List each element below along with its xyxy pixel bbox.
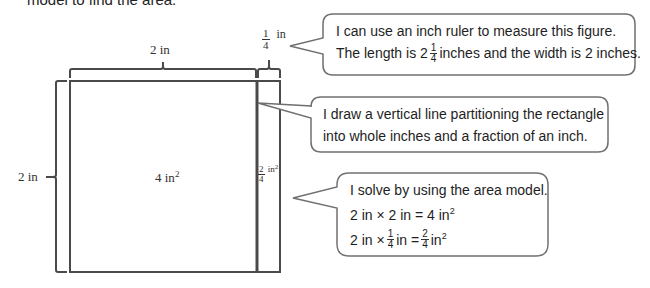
top-brace-whole (70, 62, 256, 78)
exponent: 2 (175, 169, 180, 179)
exponent: 2 (450, 206, 455, 216)
bubble-3-text: I solve by using the area model. 2 in × … (350, 180, 548, 251)
whole-area-label: 4 in2 (155, 169, 179, 186)
bubble-2-line-1: I draw a vertical line partitioning the … (323, 103, 604, 125)
exponent: 2 (442, 231, 447, 241)
left-brace (46, 81, 67, 272)
text: inches and the width is 2 inches. (439, 45, 641, 61)
top-brace-fraction (258, 60, 280, 78)
unit: in (277, 27, 286, 41)
text: in = (396, 231, 419, 247)
bubble-2-text: I draw a vertical line partitioning the … (323, 103, 604, 147)
denominator: 4 (431, 54, 437, 64)
unit: in (268, 164, 275, 174)
bubble-1-text: I can use an inch ruler to measure this … (336, 20, 641, 65)
denominator: 4 (422, 240, 428, 250)
fraction-area-label: 2 4 in2 (258, 165, 278, 184)
fraction: 2 4 (258, 165, 265, 184)
text: 2 in × 2 in = 4 in (350, 207, 450, 223)
fraction: 1 4 (262, 28, 270, 51)
top-length-label: 2 in (150, 42, 170, 58)
bubble-2-line-2: into whole inches and a fraction of an i… (323, 125, 604, 147)
bubble-1-line-2: The length is 214inches and the width is… (336, 42, 641, 65)
side-width-label: 2 in (18, 169, 38, 185)
bubble-1-line-1: I can use an inch ruler to measure this … (336, 20, 641, 42)
top-fraction-label: 1 4 in (262, 28, 286, 51)
denominator: 4 (263, 40, 269, 51)
text: 2 in × (350, 231, 385, 247)
area-value: 4 in (155, 170, 175, 185)
fraction: 14 (430, 43, 438, 64)
fraction: 14 (387, 229, 395, 250)
bubble-3-line-3: 2 in ×14in =24in2 (350, 226, 548, 251)
denominator: 4 (259, 175, 264, 184)
text: in (431, 231, 442, 247)
exponent: 2 (275, 163, 279, 171)
bubble-3-line-2: 2 in × 2 in = 4 in2 (350, 201, 548, 226)
bubble-3-line-1: I solve by using the area model. (350, 180, 548, 201)
text: The length is 2 (336, 45, 428, 61)
fraction: 24 (421, 229, 429, 250)
denominator: 4 (388, 240, 394, 250)
